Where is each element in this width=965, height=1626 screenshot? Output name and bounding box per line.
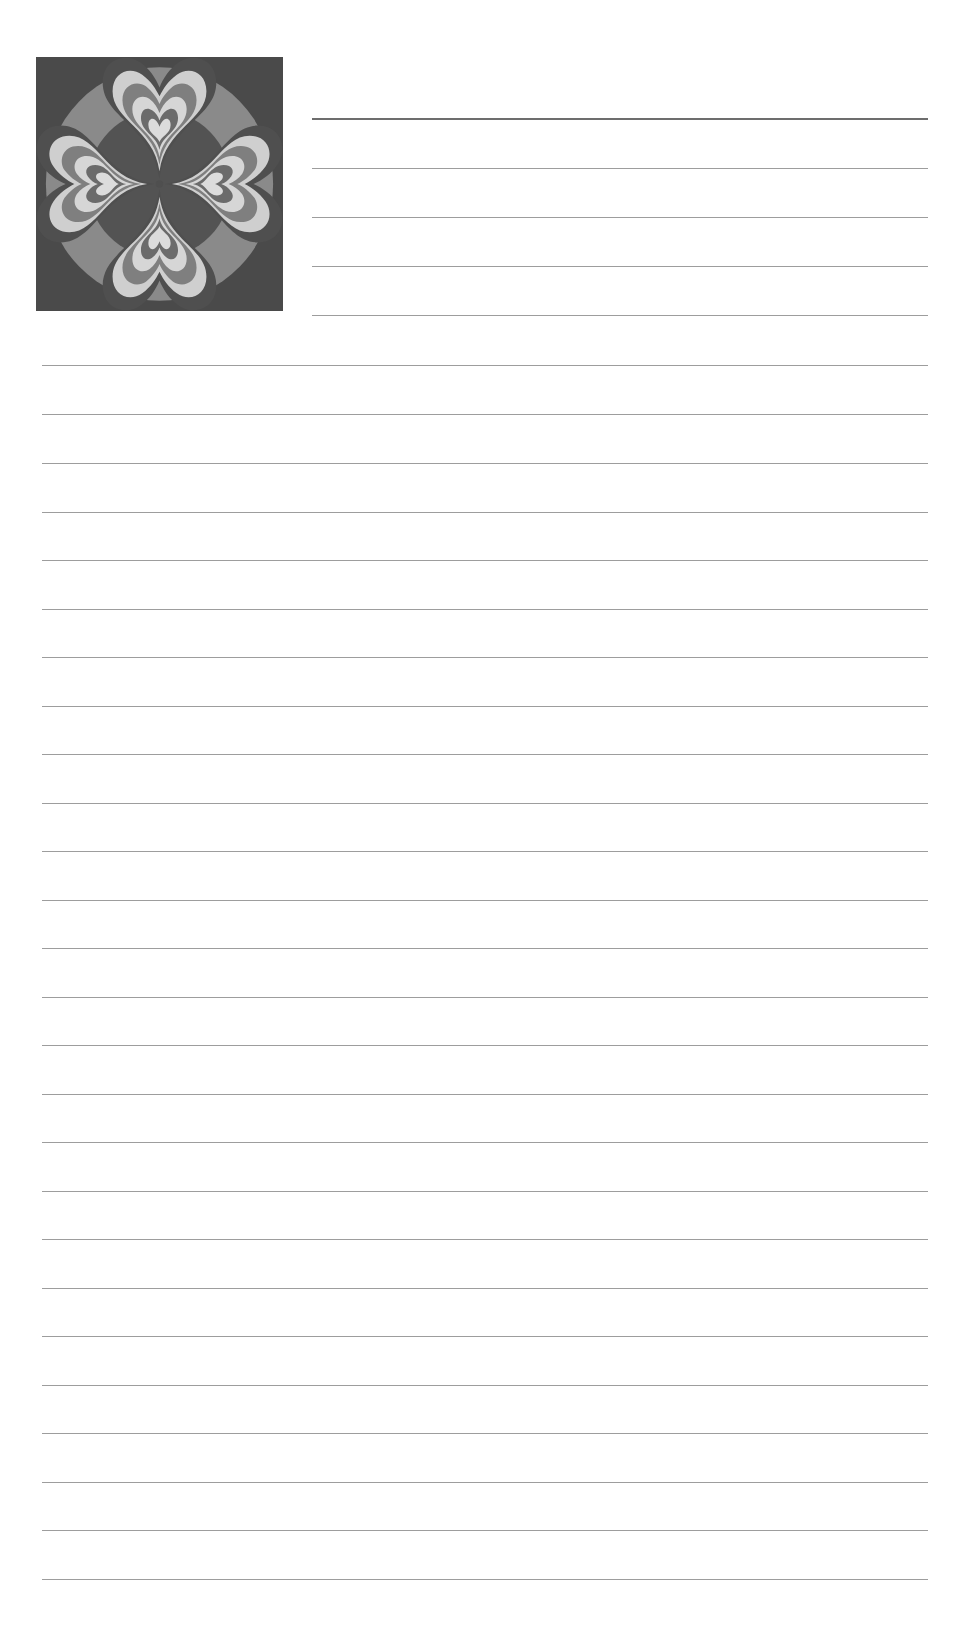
rule-line: [42, 1433, 928, 1434]
rule-line: [42, 463, 928, 464]
rule-line: [42, 609, 928, 610]
heart-mandala-svg: [36, 57, 283, 311]
rule-line-short: [312, 168, 928, 169]
rule-line: [42, 1336, 928, 1337]
rule-line: [42, 1239, 928, 1240]
rule-line: [42, 803, 928, 804]
rule-line: [42, 1142, 928, 1143]
rule-line: [42, 1045, 928, 1046]
rule-line-short: [312, 266, 928, 267]
rule-line: [42, 706, 928, 707]
rule-line: [42, 365, 928, 366]
rule-line: [42, 997, 928, 998]
rule-line: [42, 512, 928, 513]
rule-line: [42, 1482, 928, 1483]
rule-line: [42, 414, 928, 415]
artwork-center-knot: [156, 180, 163, 188]
rule-line: [42, 1530, 928, 1531]
rule-line: [42, 1579, 928, 1580]
rule-line: [42, 657, 928, 658]
rule-line: [42, 754, 928, 755]
rule-line: [42, 1288, 928, 1289]
rule-line: [42, 900, 928, 901]
rule-line-short: [312, 217, 928, 218]
rule-line: [42, 1385, 928, 1386]
heart-mandala-artwork: [36, 57, 283, 311]
rule-line: [42, 560, 928, 561]
rule-line-short: [312, 118, 928, 120]
rule-line: [42, 851, 928, 852]
notebook-page: [0, 0, 965, 1626]
rule-line: [42, 1191, 928, 1192]
rule-line-short: [312, 315, 928, 316]
rule-line: [42, 948, 928, 949]
rule-line: [42, 1094, 928, 1095]
